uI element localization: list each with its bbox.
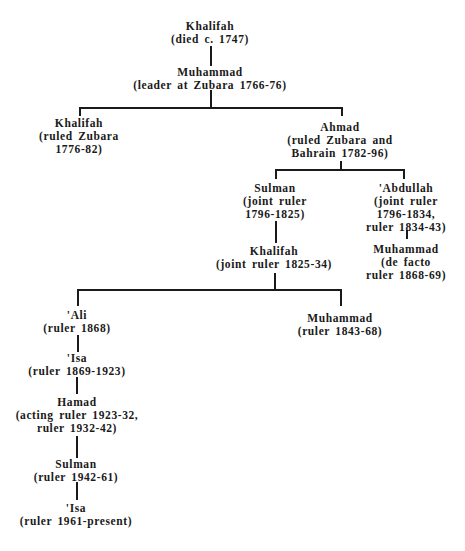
person-name: Muhammad — [298, 312, 383, 325]
person-desc: (ruler 1961-present) — [20, 515, 132, 528]
edge-to-ali — [77, 289, 79, 306]
person-name: Muhammad — [133, 66, 286, 79]
person-desc: (leader at Zubara 1766-76) — [133, 79, 286, 92]
person-name: Ahmad — [287, 121, 393, 134]
person-desc: (ruler 1869-1923) — [28, 365, 125, 378]
edge-isa1-hamad — [76, 377, 78, 394]
node-hamad: Hamad (acting ruler 1923-32, ruler 1932-… — [16, 396, 139, 435]
person-desc: ruler 1834-43) — [366, 221, 446, 234]
edge-ali-isa1 — [77, 335, 79, 352]
edge-to-khalifah2 — [79, 107, 81, 116]
person-desc: ruler 1932-42) — [16, 422, 139, 435]
person-name: Muhammad — [366, 243, 446, 256]
node-khalifah-died-1747: Khalifah (died c. 1747) — [171, 20, 249, 46]
edge-to-abdullah — [403, 169, 405, 179]
person-desc: (joint ruler — [243, 195, 307, 208]
person-desc: 1776-82) — [39, 143, 119, 156]
person-desc: (joint ruler — [366, 195, 446, 208]
person-name: 'Ali — [43, 309, 110, 322]
node-sulman-joint-ruler: Sulman (joint ruler 1796-1825) — [243, 182, 307, 221]
person-desc: (ruler 1868) — [43, 322, 110, 335]
edge-to-sulman1 — [275, 169, 277, 179]
edge-khalifah1-muhammad1 — [210, 46, 212, 66]
node-ali: 'Ali (ruler 1868) — [43, 309, 110, 335]
node-sulman-ruler-1942: Sulman (ruler 1942-61) — [34, 458, 119, 484]
person-desc: Bahrain 1782-96) — [287, 147, 393, 160]
node-abdullah: 'Abdullah (joint ruler 1796-1834, ruler … — [366, 182, 446, 234]
edge-ahmad-children — [275, 169, 404, 171]
person-name: 'Isa — [20, 502, 132, 515]
person-desc: (ruler 1942-61) — [34, 471, 119, 484]
node-ahmad: Ahmad (ruled Zubara and Bahrain 1782-96) — [287, 121, 393, 160]
edge-khalifah3-children — [77, 289, 341, 291]
edge-sulman1-khalifah3 — [275, 221, 277, 243]
person-desc: 1796-1825) — [243, 208, 307, 221]
person-desc: (ruled Zubara — [39, 130, 119, 143]
person-desc: (ruled Zubara and — [287, 134, 393, 147]
node-khalifah-joint-ruler: Khalifah (joint ruler 1825-34) — [216, 245, 332, 271]
person-desc: 1796-1834, — [366, 208, 446, 221]
family-tree-diagram: Khalifah (died c. 1747) Muhammad (leader… — [0, 0, 465, 551]
node-muhammad-leader-zubara: Muhammad (leader at Zubara 1766-76) — [133, 66, 286, 92]
edge-muhammad1-down — [210, 90, 212, 108]
person-desc: ruler 1868-69) — [366, 269, 446, 282]
person-name: Hamad — [16, 396, 139, 409]
person-desc: (acting ruler 1923-32, — [16, 409, 139, 422]
person-name: Khalifah — [171, 20, 249, 33]
person-desc: (ruler 1843-68) — [298, 325, 383, 338]
person-name: Khalifah — [39, 117, 119, 130]
person-name: 'Abdullah — [366, 182, 446, 195]
person-name: Khalifah — [216, 245, 332, 258]
edge-sulman2-isa2 — [76, 482, 78, 500]
node-isa-ruler-1961: 'Isa (ruler 1961-present) — [20, 502, 132, 528]
person-desc: (joint ruler 1825-34) — [216, 258, 332, 271]
person-desc: (died c. 1747) — [171, 33, 249, 46]
edge-hamad-sulman2 — [76, 436, 78, 458]
node-muhammad-de-facto: Muhammad (de facto ruler 1868-69) — [366, 243, 446, 282]
node-khalifah-ruled-zubara: Khalifah (ruled Zubara 1776-82) — [39, 117, 119, 156]
person-desc: (de facto — [366, 256, 446, 269]
person-name: 'Isa — [28, 352, 125, 365]
person-name: Sulman — [34, 458, 119, 471]
node-isa-ruler-1869: 'Isa (ruler 1869-1923) — [28, 352, 125, 378]
edge-to-ahmad — [341, 107, 343, 116]
edge-muhammad1-children — [79, 107, 342, 109]
edge-to-muhammad3 — [340, 289, 342, 306]
person-name: Sulman — [243, 182, 307, 195]
node-muhammad-ruler-1843: Muhammad (ruler 1843-68) — [298, 312, 383, 338]
